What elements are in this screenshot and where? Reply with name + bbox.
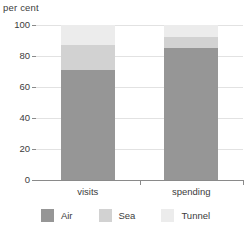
y-tick-label: 40 [3, 112, 30, 123]
legend-label: Air [61, 210, 73, 221]
legend-label: Sea [119, 210, 136, 221]
legend-item-sea[interactable]: Sea [99, 209, 136, 222]
legend-swatch-air [41, 209, 54, 222]
y-tick-label: 0 [3, 174, 30, 185]
bar-segment-visits-air [61, 70, 115, 180]
bar-spending [164, 25, 218, 180]
y-axis-unit-label: per cent [3, 2, 39, 13]
bar-segment-spending-tunnel [164, 25, 218, 37]
x-tick-mark [243, 180, 244, 185]
legend-swatch-sea [99, 209, 112, 222]
legend-item-air[interactable]: Air [41, 209, 73, 222]
bar-segment-visits-sea [61, 45, 115, 70]
legend-swatch-tunnel [161, 209, 174, 222]
y-tick-mark [32, 56, 36, 57]
legend-item-tunnel[interactable]: Tunnel [161, 209, 210, 222]
stacked-bar-chart: per cent 020406080100 AirSeaTunnel visit… [0, 0, 251, 239]
legend-label: Tunnel [181, 210, 210, 221]
x-tick-label-visits: visits [77, 186, 98, 197]
bar-segment-spending-sea [164, 37, 218, 48]
y-tick-label: 60 [3, 81, 30, 92]
bar-segment-visits-tunnel [61, 25, 115, 45]
y-tick-mark [32, 118, 36, 119]
bar-segment-spending-air [164, 48, 218, 180]
x-tick-mark [140, 180, 141, 185]
plot-area: 020406080100 [36, 25, 243, 180]
bar-visits [61, 25, 115, 180]
y-tick-label: 20 [3, 143, 30, 154]
y-tick-mark [32, 25, 36, 26]
x-tick-label-spending: spending [172, 186, 211, 197]
chart-legend: AirSeaTunnel [0, 209, 251, 222]
y-tick-mark [32, 149, 36, 150]
y-tick-label: 80 [3, 50, 30, 61]
y-tick-label: 100 [3, 19, 30, 30]
y-tick-mark [32, 87, 36, 88]
